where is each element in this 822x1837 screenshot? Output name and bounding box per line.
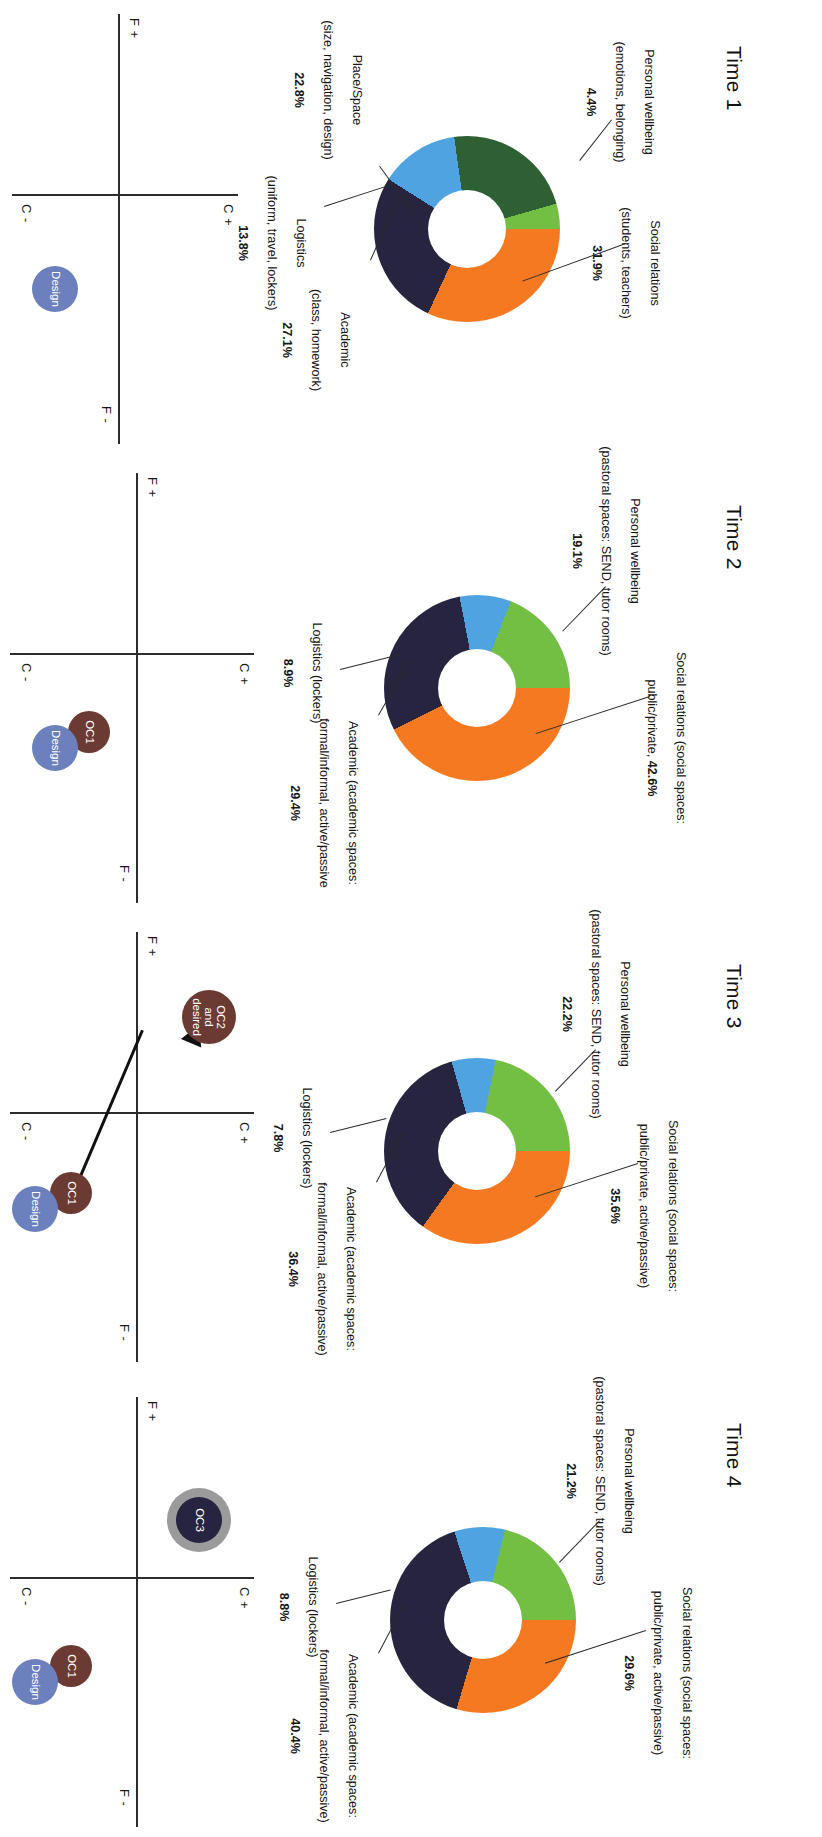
donut-chart [374, 136, 560, 322]
axis-label-f-minus: F - [117, 865, 132, 882]
donut-time-4 [390, 1527, 576, 1713]
bubble-label: OC2 and desired [191, 996, 227, 1038]
leader-logistics [336, 1589, 391, 1604]
callout-logistics: Logistics (lockers) 8.8% [276, 1527, 334, 1687]
bubble-label: Design [49, 728, 61, 768]
axis-label-f-plus: F + [127, 18, 142, 39]
panel-time-1: Time 1 Personal wellbeing (emotions, bel… [0, 0, 822, 459]
panel-time-2: Time 2 Personal wellbeing (pastoral spac… [0, 459, 822, 918]
axis-label-c-plus: C + [237, 663, 252, 685]
quadrant-time-1: C + C - F + F - Design [10, 14, 230, 444]
donut-chart [384, 595, 570, 781]
quadrant-y-axis [10, 653, 254, 655]
bubble-design[interactable]: Design [12, 1186, 58, 1232]
quadrant-time-3: C + C - F + F - OC2 and desired OC1 Desi… [10, 932, 242, 1362]
panel-title-time-3: Time 3 [722, 964, 746, 1029]
bubble-label: OC1 [83, 718, 95, 746]
panel-title-time-2: Time 2 [722, 505, 746, 570]
axis-label-f-plus: F + [145, 1401, 160, 1422]
bubble-label: Design [49, 269, 61, 309]
figure-stage: Time 1 Personal wellbeing (emotions, bel… [0, 0, 822, 1837]
callout-place-space: Place/Space (size, navigation, design) 2… [292, 0, 378, 190]
panel-time-3: Time 3 Personal wellbeing (pastoral spac… [0, 918, 822, 1377]
bubble-oc2[interactable]: OC2 and desired [182, 990, 236, 1044]
panel-title-time-4: Time 4 [722, 1423, 746, 1488]
donut-time-3 [384, 1058, 570, 1244]
donut-time-2 [384, 595, 570, 781]
quadrant-y-axis [10, 1112, 254, 1114]
axis-label-f-plus: F + [145, 477, 160, 498]
quadrant-time-2: C + C - F + F - OC1 Design [10, 473, 242, 903]
bubble-design[interactable]: Design [32, 725, 78, 771]
bubble-design[interactable]: Design [32, 266, 78, 312]
callout-social-relations: Social relations (social spaces: public/… [608, 1098, 694, 1314]
axis-label-c-plus: C + [221, 204, 236, 226]
callout-personal-wellbeing: Personal wellbeing (emotions, belonging)… [584, 6, 670, 198]
axis-label-c-minus: C - [19, 204, 34, 223]
axis-label-c-plus: C + [237, 1122, 252, 1144]
axis-label-c-minus: C - [19, 1587, 34, 1606]
donut-time-1 [374, 136, 560, 322]
panel-time-4: Time 4 Personal wellbeing (pastoral spac… [0, 1377, 822, 1837]
axis-label-c-minus: C - [19, 1122, 34, 1141]
bubble-label: Design [29, 1189, 41, 1229]
bubble-label: OC1 [65, 1652, 77, 1680]
bubble-label: Design [29, 1662, 41, 1702]
quadrant-x-axis [118, 14, 120, 444]
axis-label-f-plus: F + [145, 936, 160, 957]
quadrant-time-4: C + C - F + F - OC3 OC1 Design [10, 1397, 242, 1827]
callout-logistics: Logistics (lockers) 8.9% [280, 593, 338, 753]
axis-label-c-plus: C + [237, 1587, 252, 1609]
callout-social-relations: Social relations (students, teachers) 31… [590, 174, 676, 352]
callout-social-relations: Social relations (social spaces: public/… [622, 1563, 708, 1783]
axis-label-c-minus: C - [19, 663, 34, 682]
axis-label-f-minus: F - [99, 406, 114, 423]
bubble-oc3[interactable]: OC3 [176, 1497, 222, 1543]
panel-title-time-1: Time 1 [722, 46, 746, 111]
callout-personal-wellbeing: Personal wellbeing (pastoral spaces: SEN… [570, 433, 656, 669]
callout-personal-wellbeing: Personal wellbeing (pastoral spaces: SEN… [560, 896, 646, 1132]
leader-logistics [330, 1118, 387, 1133]
quadrant-x-axis [136, 473, 138, 903]
donut-chart [390, 1527, 576, 1713]
quadrant-x-axis [136, 932, 138, 1362]
axis-label-f-minus: F - [117, 1789, 132, 1806]
callout-logistics: Logistics (lockers) 7.8% [270, 1058, 328, 1218]
donut-chart [384, 1058, 570, 1244]
quadrant-y-axis [10, 1577, 254, 1579]
bubble-label: OC3 [193, 1506, 205, 1534]
axis-label-f-minus: F - [117, 1324, 132, 1341]
bubble-label: OC1 [65, 1179, 77, 1207]
callout-social-relations: Social relations (social spaces: public/… [644, 623, 702, 853]
quadrant-x-axis [136, 1397, 138, 1827]
quadrant-y-axis [12, 194, 238, 196]
bubble-design[interactable]: Design [12, 1659, 58, 1705]
